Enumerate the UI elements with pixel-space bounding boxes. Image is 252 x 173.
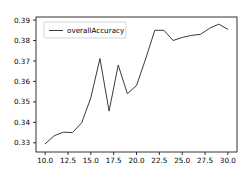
x-tick-label: 10.0 [37,156,53,165]
x-tick-label: 25.0 [174,156,190,165]
x-tick-label: 30.0 [220,156,236,165]
x-axis-tick-marks [45,152,228,155]
x-tick-label: 15.0 [83,156,99,165]
y-tick-label: 0.39 [14,16,30,25]
chart-figure: 0.330.340.350.360.370.380.39 10.012.515.… [0,0,252,173]
x-tick-label: 12.5 [60,156,76,165]
y-tick-label: 0.33 [14,138,30,147]
x-tick-label: 17.5 [106,156,122,165]
x-tick-label: 27.5 [197,156,213,165]
y-tick-label: 0.35 [14,97,30,106]
x-tick-label: 20.0 [128,156,144,165]
y-tick-label: 0.38 [14,36,30,45]
x-tick-label: 22.5 [151,156,167,165]
y-tick-label: 0.37 [14,57,30,66]
y-tick-label: 0.34 [14,118,30,127]
y-axis-tick-labels: 0.330.340.350.360.370.380.39 [14,16,30,148]
line-chart: 0.330.340.350.360.370.380.39 10.012.515.… [0,0,252,173]
y-tick-label: 0.36 [14,77,30,86]
data-line-overallAccuracy [45,24,228,144]
y-axis-tick-marks [33,20,36,143]
x-axis-tick-labels: 10.012.515.017.520.022.525.027.530.0 [37,156,236,165]
legend-label-overallAccuracy: overallAccuracy [67,26,125,35]
